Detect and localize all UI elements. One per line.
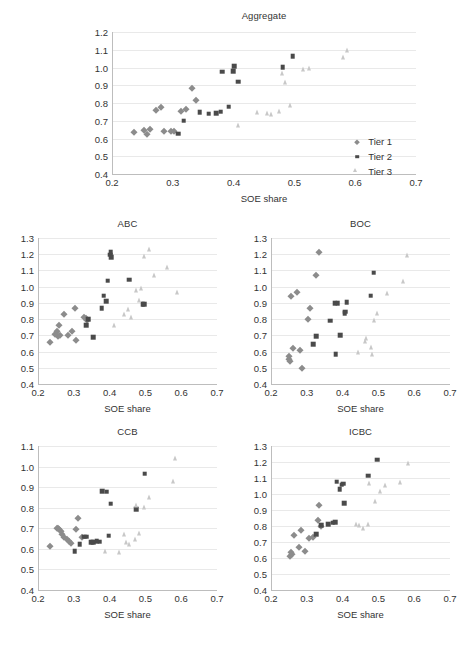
gridline-horizontal xyxy=(271,574,450,575)
gridline-horizontal xyxy=(38,528,217,529)
gridline-horizontal xyxy=(112,68,416,69)
y-axis-tick-label: 0.7 xyxy=(21,523,34,534)
x-axis-tick-label: 0.7 xyxy=(210,593,223,604)
y-axis-line xyxy=(271,446,272,590)
data-point-triangle xyxy=(367,481,371,486)
gridline-horizontal xyxy=(271,270,450,271)
x-axis-tick-label: 0.2 xyxy=(105,177,118,188)
y-axis-tick-label: 1.1 xyxy=(95,44,108,55)
data-point-diamond xyxy=(72,525,78,531)
data-point-triangle xyxy=(375,311,379,316)
data-point-diamond xyxy=(307,305,313,311)
data-point-diamond xyxy=(73,337,79,343)
data-point-triangle xyxy=(283,79,287,84)
data-point-triangle xyxy=(122,532,126,537)
legend-marker-diamond xyxy=(355,139,360,144)
data-point-triangle xyxy=(175,289,179,294)
legend-item[interactable]: Tier 3 xyxy=(355,164,392,179)
panel-aggregate: Aggregate0.40.50.60.70.80.91.01.11.20.20… xyxy=(0,10,466,218)
gridline-horizontal xyxy=(38,319,217,320)
y-axis-tick-label: 0.8 xyxy=(254,521,267,532)
data-point-square xyxy=(91,335,96,340)
data-point-square xyxy=(176,131,181,136)
data-point-triangle xyxy=(398,479,402,484)
data-point-square xyxy=(197,110,202,115)
data-point-diamond xyxy=(61,311,67,317)
x-axis-line xyxy=(271,384,450,385)
gridline-horizontal xyxy=(38,487,217,488)
y-axis-tick-label: 0.9 xyxy=(21,297,34,308)
data-point-triangle xyxy=(406,461,410,466)
data-point-square xyxy=(142,471,147,476)
gridline-horizontal xyxy=(271,303,450,304)
x-axis-label: SOE share xyxy=(271,609,450,620)
data-point-triangle xyxy=(280,71,284,76)
gridline-horizontal xyxy=(271,510,450,511)
gridline-horizontal xyxy=(38,270,217,271)
gridline-horizontal xyxy=(112,103,416,104)
data-point-triangle xyxy=(165,264,169,269)
x-axis-tick-label: 0.3 xyxy=(67,593,80,604)
gridline-horizontal xyxy=(112,50,416,51)
data-point-square xyxy=(219,110,224,115)
data-point-square xyxy=(101,293,106,298)
x-axis-label: SOE share xyxy=(112,193,416,204)
data-point-diamond xyxy=(72,304,78,310)
gridline-horizontal xyxy=(271,335,450,336)
y-axis-tick-label: 0.9 xyxy=(95,80,108,91)
gridline-horizontal xyxy=(271,238,450,239)
data-point-diamond xyxy=(305,316,311,322)
data-point-diamond xyxy=(47,542,53,548)
panel-ccb: CCB0.40.50.60.70.80.91.01.10.20.30.40.50… xyxy=(0,426,233,632)
data-point-square xyxy=(333,520,338,525)
y-axis-tick-label: 1.2 xyxy=(254,457,267,468)
data-point-square xyxy=(206,112,211,117)
x-axis-line xyxy=(38,384,217,385)
data-point-diamond xyxy=(302,548,308,554)
data-point-square xyxy=(226,105,231,110)
x-axis-tick-label: 0.3 xyxy=(67,387,80,398)
data-point-diamond xyxy=(56,321,62,327)
data-point-triangle xyxy=(142,505,146,510)
y-axis-tick-label: 1.2 xyxy=(254,249,267,260)
legend-label: Tier 1 xyxy=(368,136,392,147)
data-point-square xyxy=(72,549,77,554)
y-axis-tick-label: 0.6 xyxy=(21,543,34,554)
gridline-horizontal xyxy=(271,319,450,320)
data-point-triangle xyxy=(277,108,281,113)
y-axis-tick-label: 0.8 xyxy=(95,98,108,109)
gridline-horizontal xyxy=(38,467,217,468)
data-point-triangle xyxy=(171,479,175,484)
data-point-square xyxy=(181,118,186,123)
data-point-square xyxy=(341,481,346,486)
x-axis-tick-label: 0.4 xyxy=(336,387,349,398)
x-axis-label: SOE share xyxy=(271,403,450,414)
data-point-square xyxy=(220,69,225,74)
y-axis-line xyxy=(112,32,113,174)
x-axis-line xyxy=(38,590,217,591)
y-axis-tick-label: 0.8 xyxy=(254,314,267,325)
panel-abc: ABC0.40.50.60.70.80.91.01.11.21.30.20.30… xyxy=(0,218,233,426)
x-axis-tick-label: 0.4 xyxy=(227,177,240,188)
y-axis-tick-label: 0.8 xyxy=(21,314,34,325)
x-axis-line xyxy=(271,590,450,591)
data-point-diamond xyxy=(290,344,296,350)
y-axis-tick-label: 1.0 xyxy=(254,281,267,292)
data-point-triangle xyxy=(345,48,349,53)
y-axis-tick-label: 1.1 xyxy=(21,265,34,276)
data-point-triangle xyxy=(383,482,387,487)
data-point-triangle xyxy=(361,525,365,530)
data-point-square xyxy=(371,271,376,276)
data-point-square xyxy=(314,334,319,339)
data-point-triangle xyxy=(401,278,405,283)
data-point-square xyxy=(99,306,104,311)
gridline-horizontal xyxy=(112,32,416,33)
x-axis-label: SOE share xyxy=(38,403,217,414)
legend-item[interactable]: Tier 1 xyxy=(355,134,392,149)
legend-label: Tier 2 xyxy=(368,151,392,162)
x-axis-tick-label: 0.6 xyxy=(175,387,188,398)
y-axis-tick-label: 1.1 xyxy=(21,441,34,452)
gridline-horizontal xyxy=(38,508,217,509)
data-point-square xyxy=(328,318,333,323)
legend-item[interactable]: Tier 2 xyxy=(355,149,392,164)
